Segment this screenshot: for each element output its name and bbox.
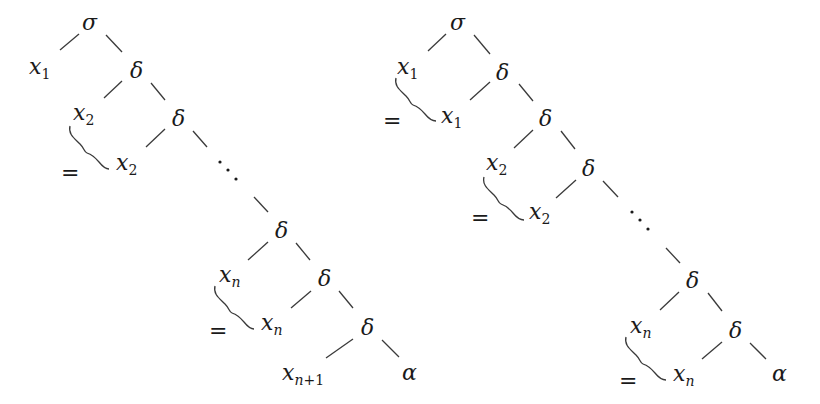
ellipsis-icon	[630, 210, 649, 230]
delta-node: δ	[496, 60, 509, 85]
edge	[151, 83, 165, 100]
edge	[660, 292, 679, 310]
x1-node: x1	[397, 54, 418, 82]
delta-node: δ	[275, 218, 288, 243]
edge	[146, 129, 165, 147]
delta-node: δ	[318, 266, 331, 291]
xn-node: xn	[630, 313, 651, 341]
x2-node: x2	[529, 199, 550, 227]
edge	[519, 84, 533, 101]
delta-node: δ	[539, 106, 552, 131]
equals-sign: =	[61, 160, 79, 185]
x2-node: x2	[73, 100, 94, 128]
left-tree: σ x1 δ x2 δ x2 = δ xn δ xn = δ xn+1 α	[29, 10, 417, 388]
delta-node: δ	[172, 106, 185, 131]
edge	[248, 242, 268, 260]
equality-brace	[484, 177, 524, 220]
delta-node: δ	[582, 156, 595, 181]
edge	[708, 293, 722, 311]
delta-node: δ	[729, 318, 742, 343]
edge	[428, 34, 446, 51]
edge	[296, 243, 310, 260]
xn-node: xn	[219, 262, 240, 290]
alpha-node: α	[772, 361, 787, 386]
delta-node: δ	[686, 268, 699, 293]
equals-sign: =	[471, 205, 489, 230]
sigma-node: σ	[82, 10, 98, 35]
equality-brace	[396, 78, 436, 121]
delta-node: δ	[130, 58, 143, 83]
xn-plus-1-node: xn+1	[282, 360, 324, 388]
x2-node: x2	[486, 150, 507, 178]
alpha-node: α	[402, 360, 417, 385]
xn-node: xn	[261, 310, 282, 338]
edge	[106, 35, 122, 52]
right-tree-edges	[428, 34, 766, 359]
edge	[750, 343, 766, 359]
equals-sign: =	[383, 108, 401, 133]
edge	[326, 339, 353, 358]
edge	[470, 82, 490, 100]
edge	[254, 197, 268, 212]
edge	[474, 35, 490, 54]
edge	[382, 340, 399, 357]
xn-node: xn	[673, 361, 694, 389]
tree-diagram: σ x1 δ x2 δ x2 = δ xn δ xn = δ xn+1 α	[0, 0, 820, 404]
equals-sign: =	[619, 368, 637, 393]
edge	[104, 81, 122, 98]
edge	[666, 248, 680, 263]
ellipsis-icon	[218, 160, 237, 180]
delta-node: δ	[361, 315, 374, 340]
edge	[193, 131, 207, 147]
x2-node: x2	[116, 150, 137, 178]
x1-node: x1	[29, 54, 50, 82]
edge	[339, 291, 353, 308]
edge	[60, 34, 79, 50]
sigma-node: σ	[450, 10, 466, 35]
edge	[702, 342, 722, 359]
equals-sign: =	[209, 318, 227, 343]
x1-node: x1	[441, 103, 462, 131]
edge	[556, 180, 576, 198]
edge	[561, 131, 575, 149]
edge	[603, 181, 618, 197]
edge	[514, 130, 533, 148]
edge	[291, 291, 311, 308]
right-tree: σ x1 δ x1 = δ x2 δ x2 = δ xn δ xn = α	[383, 10, 787, 393]
